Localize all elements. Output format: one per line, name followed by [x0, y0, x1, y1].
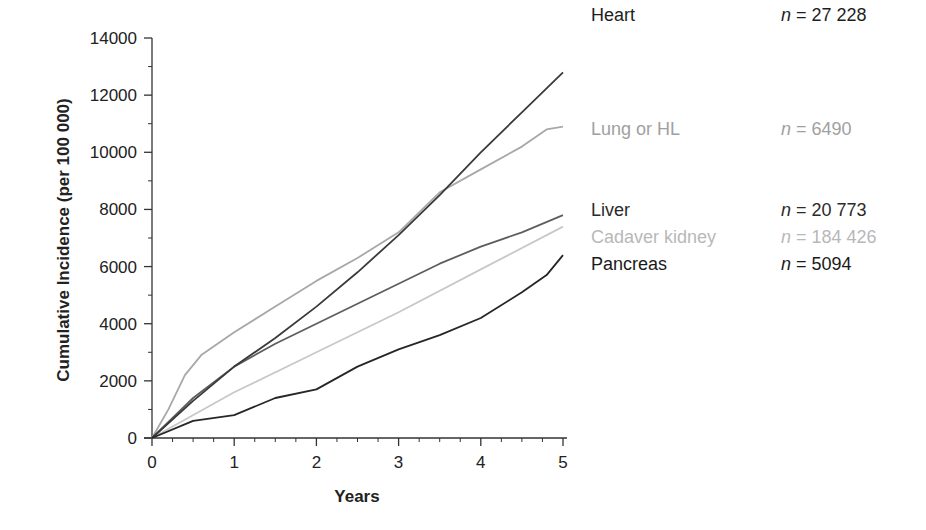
y-tick-label: 6000 [99, 258, 137, 277]
legend-count: n = 184 426 [781, 226, 877, 248]
n-symbol: n [781, 119, 791, 139]
y-tick-label: 8000 [99, 200, 137, 219]
series-lines [152, 72, 563, 438]
y-tick-label: 10000 [90, 143, 137, 162]
x-axis-label: Years [334, 487, 379, 506]
n-value: = 5094 [791, 254, 852, 274]
x-tick-label: 0 [147, 453, 156, 472]
y-tick-label: 4000 [99, 315, 137, 334]
legend: Heart n = 27 228 Lung or HL n = 6490 Liv… [591, 0, 926, 300]
n-symbol: n [781, 254, 791, 274]
legend-label: Cadaver kidney [591, 226, 716, 248]
legend-count: n = 27 228 [781, 4, 867, 26]
series-line-heart [152, 72, 563, 438]
n-symbol: n [781, 200, 791, 220]
legend-label: Pancreas [591, 253, 667, 275]
legend-label: Lung or HL [591, 118, 680, 140]
x-tick-label: 4 [476, 453, 485, 472]
n-symbol: n [781, 5, 791, 25]
x-tick-label: 5 [558, 453, 567, 472]
legend-count: n = 20 773 [781, 199, 867, 221]
legend-count: n = 6490 [781, 118, 852, 140]
y-tick-label: 14000 [90, 29, 137, 48]
n-value: = 27 228 [791, 5, 867, 25]
series-line-lung-or-hl [152, 127, 563, 438]
x-tick-label: 3 [394, 453, 403, 472]
legend-label: Heart [591, 4, 635, 26]
x-tick-label: 2 [312, 453, 321, 472]
legend-count: n = 5094 [781, 253, 852, 275]
legend-label: Liver [591, 199, 630, 221]
n-symbol: n [781, 227, 791, 247]
n-value: = 6490 [791, 119, 852, 139]
n-value: = 184 426 [791, 227, 877, 247]
y-axis-label: Cumulative Incidence (per 100 000) [54, 98, 73, 381]
y-tick-label: 2000 [99, 372, 137, 391]
n-value: = 20 773 [791, 200, 867, 220]
x-tick-label: 1 [229, 453, 238, 472]
axes: 02000400060008000100001200014000012345 [90, 29, 568, 472]
y-tick-label: 0 [128, 429, 137, 448]
y-tick-label: 12000 [90, 86, 137, 105]
